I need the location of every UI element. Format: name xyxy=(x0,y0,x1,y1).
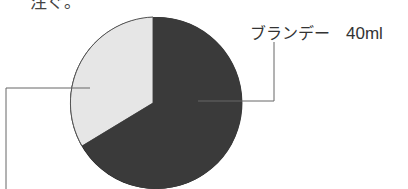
brandy-name: ブランデー xyxy=(250,24,330,43)
brandy-label: ブランデー40ml xyxy=(250,20,383,44)
brandy-value: 40ml xyxy=(346,24,383,43)
